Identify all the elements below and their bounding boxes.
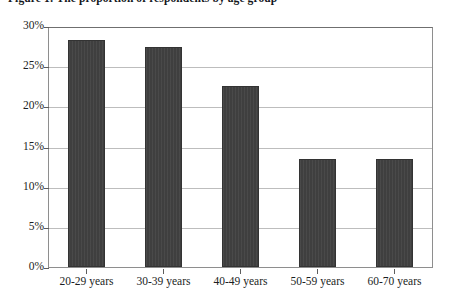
y-axis-tick (44, 27, 49, 28)
bar (222, 86, 259, 267)
bar (376, 159, 413, 267)
y-axis-tick-label: 15% (0, 140, 44, 152)
y-axis-tick-label: 10% (0, 180, 44, 192)
x-axis-tick-label: 60-70 years (356, 275, 433, 287)
y-axis-tick (44, 148, 49, 149)
x-axis-tick-label: 40-49 years (202, 275, 279, 287)
y-axis-tick (44, 228, 49, 229)
plot-area (48, 27, 433, 268)
x-axis-tick (394, 269, 395, 274)
y-axis-tick-label: 20% (0, 99, 44, 111)
y-axis-tick (44, 67, 49, 68)
bar (68, 40, 105, 267)
y-axis-tick-label: 5% (0, 220, 44, 232)
gridline (49, 67, 432, 68)
x-axis-tick-label: 30-39 years (125, 275, 202, 287)
y-axis-tick-label: 30% (0, 19, 44, 31)
x-axis-tick (317, 269, 318, 274)
x-axis-tick (163, 269, 164, 274)
y-axis-tick-label: 0% (0, 260, 44, 272)
bar (145, 47, 182, 267)
bar (299, 159, 336, 267)
x-axis-tick-label: 20-29 years (48, 275, 125, 287)
bar-chart: 0%5%10%15%20%25%30% 20-29 years30-39 yea… (0, 0, 449, 300)
y-axis-tick-label: 25% (0, 59, 44, 71)
x-axis-tick (240, 269, 241, 274)
x-axis-tick (86, 269, 87, 274)
y-axis-tick (44, 107, 49, 108)
x-axis-tick-label: 50-59 years (279, 275, 356, 287)
y-axis-tick (44, 188, 49, 189)
x-axis: 20-29 years30-39 years40-49 years50-59 y… (48, 269, 433, 300)
